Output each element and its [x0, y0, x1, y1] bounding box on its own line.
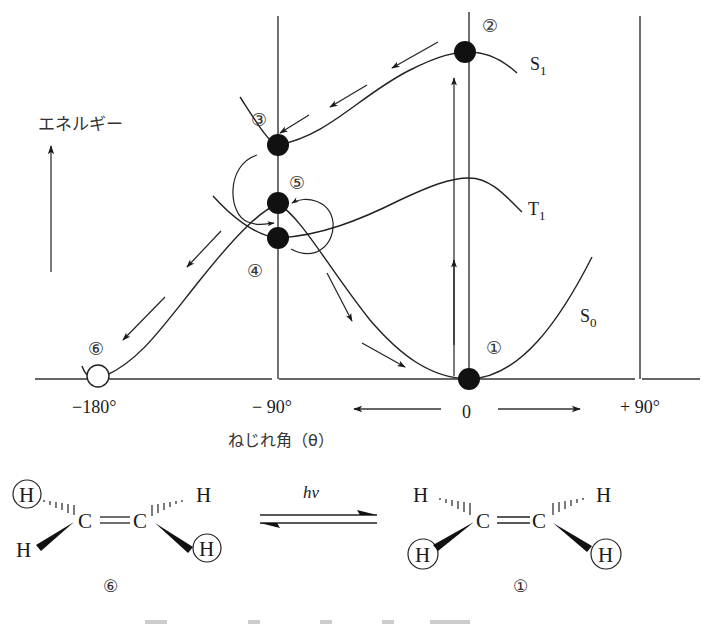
h-top-left: H: [413, 483, 428, 507]
curve-labels: S1 T1 S0: [528, 54, 597, 330]
s1-relax-arrow-1: [392, 42, 438, 68]
tick-plus90: + 90°: [620, 397, 660, 417]
photoisomerization-diagram: エネルギー: [0, 0, 724, 624]
decay-arrow-right-2: [362, 343, 405, 367]
state-points: [87, 41, 480, 390]
right-molecule: H H H H C C ①: [408, 483, 621, 596]
point-2-dot: [454, 41, 476, 63]
process-arrows: [123, 42, 454, 376]
s1-curve: [240, 52, 517, 145]
hv-label: hv: [303, 483, 320, 502]
decay-arrow-right-1: [327, 273, 352, 321]
t1-curve: [213, 178, 522, 238]
loop-arrow: [291, 199, 333, 253]
h-bottom-left: H: [16, 538, 31, 562]
point-4-dot: [267, 227, 289, 249]
point-labels: ② ③ ⑤ ④ ① ⑥: [88, 15, 502, 359]
left-molecule: H H H H C C ⑥: [13, 480, 221, 596]
carbon-right: C: [133, 509, 147, 533]
h-bottom-right: H: [199, 537, 214, 561]
point-label-4: ④: [247, 260, 263, 281]
point-3-dot: [267, 134, 289, 156]
reverse-arrowhead: [260, 523, 280, 528]
forward-arrowhead: [357, 510, 377, 515]
decay-arrow-left-2: [123, 297, 165, 340]
tick-minus90: − 90°: [252, 397, 292, 417]
point-label-3: ③: [251, 109, 267, 130]
point-5-dot: [267, 192, 289, 214]
h-top-left: H: [19, 483, 34, 507]
s1-label: S1: [530, 54, 547, 78]
wedge-bond: [155, 523, 193, 553]
h-bottom-right: H: [598, 543, 613, 567]
energy-axis-label: エネルギー: [38, 114, 123, 134]
wedge-bond: [433, 522, 474, 551]
left-molecule-label: ⑥: [103, 576, 118, 596]
hashed-bond: [44, 500, 74, 515]
caption-remnant: [145, 620, 470, 624]
carbon-right: C: [532, 509, 546, 533]
carbon-left: C: [476, 509, 490, 533]
h-top-right: H: [196, 483, 211, 507]
tick-zero: 0: [462, 402, 471, 422]
wedge-bond: [553, 523, 592, 552]
s1-relax-arrow-2: [330, 85, 367, 107]
h-top-right: H: [596, 483, 611, 507]
point-6-dot: [87, 365, 109, 387]
hashed-bond: [152, 500, 182, 516]
point-label-5: ⑤: [289, 172, 305, 193]
right-molecule-label: ①: [513, 576, 528, 596]
hashed-bond: [440, 498, 470, 515]
tick-minus180: −180°: [72, 397, 116, 417]
h-bottom-left: H: [415, 543, 430, 567]
curves: [82, 52, 592, 379]
hashed-bond: [553, 498, 583, 515]
s1-relax-arrow-3: [280, 115, 309, 133]
point-1-dot: [458, 368, 480, 390]
point-label-2: ②: [482, 15, 498, 36]
carbon-left: C: [78, 509, 92, 533]
s0-label: S0: [580, 306, 597, 330]
point-label-6: ⑥: [88, 338, 104, 359]
axes: [35, 12, 700, 379]
isc-curve-arrow: [233, 155, 274, 224]
x-axis-label: ねじれ角（θ）: [228, 431, 334, 450]
equilibrium-arrows: hv: [260, 483, 377, 528]
point-label-1: ①: [486, 337, 502, 358]
t1-label: T1: [528, 199, 546, 223]
wedge-bond: [36, 522, 74, 551]
s0-curve: [105, 204, 592, 379]
